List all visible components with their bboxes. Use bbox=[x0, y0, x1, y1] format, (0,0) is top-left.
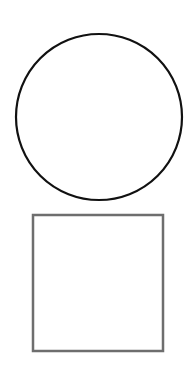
diagram-canvas bbox=[0, 0, 189, 367]
circle-shape bbox=[16, 34, 182, 200]
square-shape bbox=[33, 215, 163, 351]
